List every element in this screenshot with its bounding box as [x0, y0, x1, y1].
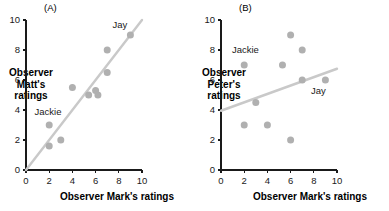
data-point	[279, 62, 286, 69]
data-point	[264, 122, 271, 129]
y-tick-label: 0	[210, 164, 215, 175]
panel-b-x-axis-label: Observer Mark's ratings	[235, 191, 385, 203]
panel-a: (A) Observer Matt's ratings 024681002468…	[0, 0, 194, 211]
data-point	[299, 77, 306, 84]
data-point	[322, 77, 329, 84]
data-point	[241, 62, 248, 69]
point-annotation-jackie: Jackie	[232, 44, 259, 55]
data-point	[69, 84, 76, 91]
data-point	[241, 122, 248, 129]
data-point	[57, 137, 64, 144]
data-point	[104, 69, 111, 76]
y-tick-label: 10	[9, 14, 20, 25]
trend-line	[26, 20, 142, 170]
data-point	[46, 143, 53, 150]
y-tick-label: 8	[15, 44, 20, 55]
data-point	[287, 32, 294, 39]
data-point	[85, 92, 92, 99]
panel-a-plot: 02468100246810JackieJay	[0, 0, 194, 211]
x-tick-label: 6	[93, 175, 98, 186]
x-tick-label: 4	[265, 175, 270, 186]
data-point	[252, 99, 259, 106]
y-tick-label: 2	[15, 134, 20, 145]
data-point	[46, 122, 53, 129]
figure-container: (A) Observer Matt's ratings 024681002468…	[0, 0, 389, 211]
y-tick-label: 6	[210, 74, 215, 85]
y-tick-label: 4	[210, 104, 215, 115]
x-tick-label: 8	[116, 175, 121, 186]
y-tick-label: 0	[15, 164, 20, 175]
x-tick-label: 2	[47, 175, 52, 186]
y-tick-label: 8	[210, 44, 215, 55]
panel-b-plot: 02468100246810JackieJay	[195, 0, 389, 211]
y-tick-label: 2	[210, 134, 215, 145]
x-tick-label: 10	[137, 175, 148, 186]
y-tick-label: 4	[15, 104, 20, 115]
data-point	[94, 92, 101, 99]
point-annotation-jay: Jay	[311, 85, 326, 96]
x-tick-label: 2	[242, 175, 247, 186]
y-tick-label: 6	[15, 74, 20, 85]
data-point	[104, 47, 111, 54]
panel-a-x-axis-label: Observer Mark's ratings	[42, 191, 192, 203]
data-point	[127, 32, 134, 39]
point-annotation-jay: Jay	[113, 19, 128, 30]
x-tick-label: 0	[218, 175, 223, 186]
x-tick-label: 10	[332, 175, 343, 186]
panel-b: (B) Observer Peter's ratings 02468100246…	[195, 0, 389, 211]
x-tick-label: 6	[288, 175, 293, 186]
x-tick-label: 8	[311, 175, 316, 186]
x-tick-label: 4	[70, 175, 75, 186]
y-tick-label: 10	[204, 14, 215, 25]
x-tick-label: 0	[23, 175, 28, 186]
data-point	[299, 47, 306, 54]
data-point	[287, 137, 294, 144]
point-annotation-jackie: Jackie	[35, 106, 62, 117]
